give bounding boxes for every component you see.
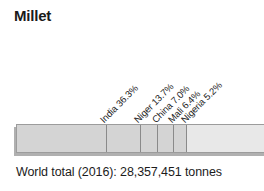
bar-segment-nigeria <box>174 125 187 152</box>
bar-segment-other <box>187 125 264 152</box>
segment-labels-layer: India 36.3%Niger 13.7%China 7.0%Mali 6.4… <box>0 0 264 124</box>
millet-production-chart: Millet India 36.3%Niger 13.7%China 7.0%M… <box>0 0 264 191</box>
chart-caption: World total (2016): 28,357,451 tonnes <box>16 165 222 179</box>
bar-segment-niger <box>107 125 141 152</box>
bar-segment-india <box>17 125 107 152</box>
stacked-bar <box>16 124 264 153</box>
bar-segment-mali <box>158 125 174 152</box>
bar-segment-china <box>141 125 158 152</box>
